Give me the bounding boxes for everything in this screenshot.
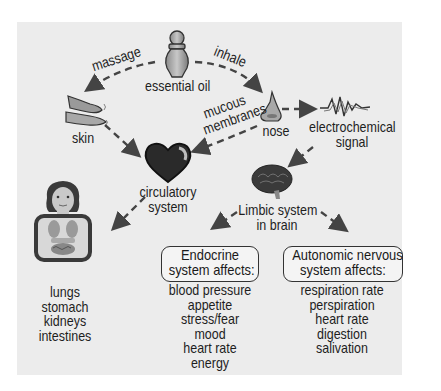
endocrine-title-box: Endocrine system affects:	[161, 246, 259, 282]
node-label-limbic-system: Limbic system in brain	[238, 203, 315, 233]
node-label-nose: nose	[261, 124, 292, 139]
circulatory-line1: circulatory	[136, 185, 200, 200]
limbic-line1: Limbic system	[238, 203, 315, 218]
signal-line1: electrochemical	[309, 120, 395, 135]
node-label-circulatory-system: circulatory system	[136, 185, 200, 215]
organs-list: lungs stomach kidneys intestines	[30, 285, 100, 343]
node-label-electrochemical-signal: electrochemical signal	[309, 120, 395, 150]
essential-oil-bottle-icon	[160, 30, 194, 80]
autonomic-title-line2: system affects:	[292, 262, 393, 277]
skin-circ-arrow	[104, 154, 135, 162]
autonomic-item: salivation	[290, 341, 393, 356]
organ-item: kidneys	[35, 314, 95, 329]
endocrine-effects-list: blood pressure appetite stress/fear mood…	[152, 283, 268, 370]
organ-item: intestines	[35, 329, 95, 344]
person-organs-icon	[33, 178, 97, 263]
autonomic-item: heart rate	[290, 312, 393, 327]
signal-line2: signal	[309, 135, 395, 150]
autonomic-item: perspiration	[290, 298, 393, 313]
endocrine-item: blood pressure	[160, 283, 260, 298]
endocrine-item: energy	[160, 356, 260, 371]
endocrine-title-line2: system affects:	[169, 262, 252, 277]
autonomic-item: respiration rate	[290, 283, 393, 298]
autonomic-title-line1: Autonomic nervous	[292, 247, 393, 262]
limbic-line2: in brain	[238, 218, 315, 233]
endocrine-item: heart rate	[160, 341, 260, 356]
hands-icon	[60, 92, 110, 132]
autonomic-item: digestion	[290, 327, 393, 342]
organ-item: stomach	[35, 300, 95, 315]
electrochemical-signal-icon	[318, 94, 374, 120]
circulatory-line2: system	[136, 200, 200, 215]
endocrine-item: mood	[160, 327, 260, 342]
brain-icon	[250, 163, 296, 201]
endocrine-title-line1: Endocrine	[169, 247, 252, 262]
autonomic-title-box: Autonomic nervous system affects:	[283, 246, 403, 282]
autonomic-effects-list: respiration rate perspiration heart rate…	[282, 283, 402, 356]
node-label-skin: skin	[70, 131, 96, 146]
endocrine-item: stress/fear	[160, 312, 260, 327]
node-label-essential-oil: essential oil	[145, 79, 207, 94]
skin-heart-arrow	[108, 153, 136, 161]
organ-item: lungs	[35, 285, 95, 300]
heart-icon	[142, 138, 194, 186]
limbic-endocrine-arrow	[216, 212, 237, 226]
limbic-autonomic-arrow	[321, 212, 343, 228]
endocrine-item: appetite	[160, 298, 260, 313]
